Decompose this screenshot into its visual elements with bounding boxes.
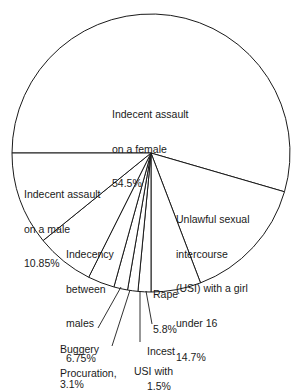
label-text: Unlawful sexual — [176, 214, 250, 226]
label-indecent-assault-female: Indecent assault on a female 54.5% — [112, 86, 188, 201]
label-text: Indecency — [66, 249, 114, 261]
label-percent: 14.7% — [176, 352, 250, 364]
label-text: Procuration, — [60, 368, 117, 380]
label-text: (USI) with a girl — [176, 283, 250, 295]
label-text: under 16 — [176, 318, 250, 330]
label-text: between — [66, 284, 114, 296]
label-text: USI with — [134, 366, 175, 378]
leader-line — [146, 291, 152, 324]
label-percent: 54.5% — [112, 178, 188, 190]
label-text: Rape — [153, 289, 178, 301]
label-text: intercourse — [176, 249, 250, 261]
label-usi-under-13: USI with a girl under 13 1.2% — [134, 343, 175, 391]
label-procuration: Procuration, abduction or bigamy 1.6% — [60, 345, 117, 391]
label-text: Indecent assault — [24, 189, 100, 201]
label-text: on a female — [112, 144, 188, 156]
label-usi-under-16: Unlawful sexual intercourse (USI) with a… — [176, 191, 250, 375]
label-text: Indecent assault — [112, 109, 188, 121]
